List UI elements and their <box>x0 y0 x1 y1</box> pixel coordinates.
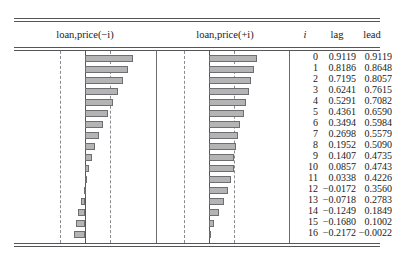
cell-index: 5 <box>292 106 318 117</box>
bar-lead-0 <box>209 55 257 62</box>
bar-lead-12 <box>209 187 228 194</box>
header-lead-panel: loan,price(+i) <box>160 25 290 45</box>
cell-lag: −0.2172 <box>318 227 356 238</box>
cell-lag: −0.0172 <box>318 183 356 194</box>
table-row: 90.14070.4735 <box>289 150 393 161</box>
bar-lag-14 <box>78 209 85 216</box>
cross-correlation-figure: loan,price(−i) loan,price(+i) i lag lead… <box>0 0 393 256</box>
bar-lag-13 <box>81 198 85 205</box>
table-row: 50.43610.6590 <box>289 106 393 117</box>
table-row: 10.81860.8648 <box>289 62 393 73</box>
cell-index: 1 <box>292 62 318 73</box>
cell-lag: 0.0338 <box>318 172 356 183</box>
cell-lag: 0.5291 <box>318 95 356 106</box>
bar-lead-7 <box>209 132 238 139</box>
cell-index: 10 <box>292 161 318 172</box>
bar-lead-5 <box>209 110 244 117</box>
bar-lag-6 <box>85 121 103 128</box>
cell-lag: 0.7195 <box>318 73 356 84</box>
table-row: 80.19520.5090 <box>289 139 393 150</box>
cell-lead: 0.1849 <box>356 205 392 216</box>
cell-lag: 0.0857 <box>318 161 356 172</box>
cell-index: 13 <box>292 194 318 205</box>
cell-lead: 0.7082 <box>356 95 392 106</box>
table-row: 13−0.07180.2783 <box>289 194 393 205</box>
cell-lead: 0.8057 <box>356 73 392 84</box>
cell-lead: −0.0022 <box>356 227 392 238</box>
cell-lead: 0.5984 <box>356 117 392 128</box>
bar-lead-2 <box>209 77 251 84</box>
cell-lead: 0.3560 <box>356 183 392 194</box>
cell-index: 0 <box>292 51 318 62</box>
bar-lead-15 <box>209 220 214 227</box>
confidence-bound-line-lower <box>184 51 185 243</box>
confidence-bound-line-lower <box>60 51 61 243</box>
cell-lag: 0.1952 <box>318 139 356 150</box>
header-index: i <box>292 25 318 45</box>
bar-lead-16 <box>209 231 211 238</box>
table-row: 00.91190.9119 <box>289 51 393 62</box>
cell-index: 14 <box>292 205 318 216</box>
bar-lag-0 <box>85 55 133 62</box>
table-row: 110.03380.4226 <box>289 172 393 183</box>
bar-lead-6 <box>209 121 240 128</box>
bar-lag-15 <box>76 220 85 227</box>
table-rule-mid-outer <box>14 47 380 48</box>
bar-lag-5 <box>85 110 108 117</box>
cell-lead: 0.4226 <box>356 172 392 183</box>
bar-lead-1 <box>209 66 254 73</box>
bar-lag-8 <box>85 143 95 150</box>
bar-lag-1 <box>85 66 128 73</box>
cell-lead: 0.5090 <box>356 139 392 150</box>
bar-lead-10 <box>209 165 234 172</box>
table-row: 40.52910.7082 <box>289 95 393 106</box>
cell-lag: −0.1249 <box>318 205 356 216</box>
bar-lag-11 <box>85 176 87 183</box>
cell-lead: 0.5579 <box>356 128 392 139</box>
cell-lag: 0.3494 <box>318 117 356 128</box>
bar-lead-9 <box>209 154 234 161</box>
bar-lead-4 <box>209 99 246 106</box>
cell-lead: 0.4743 <box>356 161 392 172</box>
bar-lead-3 <box>209 88 249 95</box>
panel-divider-middle <box>156 51 157 243</box>
table-row: 60.34940.5984 <box>289 117 393 128</box>
cell-lag: 0.2698 <box>318 128 356 139</box>
table-row: 100.08570.4743 <box>289 161 393 172</box>
bar-lag-12 <box>84 187 86 194</box>
value-table: 00.91190.911910.81860.864820.71950.80573… <box>289 51 393 243</box>
cell-lead: 0.7615 <box>356 84 392 95</box>
cell-index: 15 <box>292 216 318 227</box>
table-rule-top-outer <box>14 18 380 19</box>
bar-lead-13 <box>209 198 224 205</box>
bar-lag-16 <box>74 231 85 238</box>
table-row: 16−0.2172−0.0022 <box>289 227 393 238</box>
table-row: 15−0.16800.1002 <box>289 216 393 227</box>
table-rule-bottom-inner <box>14 246 380 247</box>
cell-lag: 0.4361 <box>318 106 356 117</box>
cell-lag: 0.8186 <box>318 62 356 73</box>
cell-index: 11 <box>292 172 318 183</box>
bar-lead-8 <box>209 143 236 150</box>
cell-lead: 0.2783 <box>356 194 392 205</box>
cell-lag: 0.1407 <box>318 150 356 161</box>
lag-bar-panel <box>14 51 156 243</box>
cell-lag: 0.9119 <box>318 51 356 62</box>
cell-lead: 0.4735 <box>356 150 392 161</box>
lead-bars <box>160 51 290 243</box>
table-row: 30.62410.7615 <box>289 84 393 95</box>
table-row: 14−0.12490.1849 <box>289 205 393 216</box>
cell-index: 9 <box>292 150 318 161</box>
header-lag-panel: loan,price(−i) <box>14 25 156 45</box>
table-rule-top-inner <box>14 21 380 22</box>
cell-lag: −0.0718 <box>318 194 356 205</box>
cell-index: 12 <box>292 183 318 194</box>
header-lag: lag <box>318 25 356 45</box>
cell-index: 16 <box>292 227 318 238</box>
cell-index: 7 <box>292 128 318 139</box>
bar-lag-10 <box>85 165 89 172</box>
bar-lag-3 <box>85 88 118 95</box>
bar-lead-11 <box>209 176 231 183</box>
table-row: 70.26980.5579 <box>289 128 393 139</box>
cell-lead: 0.9119 <box>356 51 392 62</box>
